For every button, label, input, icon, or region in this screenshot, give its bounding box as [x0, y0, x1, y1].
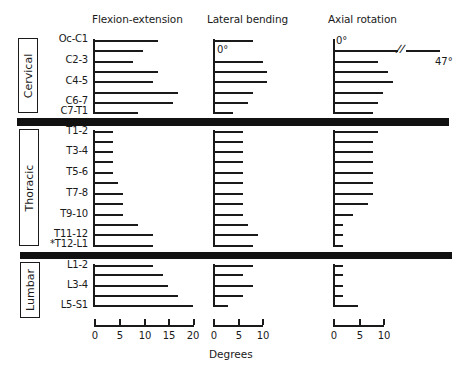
bar	[333, 71, 388, 73]
bar	[213, 92, 253, 94]
level-label: T5-6	[18, 166, 88, 177]
bar	[333, 182, 373, 184]
bar	[333, 81, 393, 83]
x-axis-label: Degrees	[209, 348, 253, 360]
bar	[93, 151, 113, 153]
bar	[333, 274, 343, 276]
axial-47-note: 47°	[435, 56, 453, 67]
bar	[93, 71, 158, 73]
bar	[213, 285, 253, 287]
bar	[93, 234, 153, 236]
bar	[93, 265, 153, 267]
bar	[213, 234, 258, 236]
bar	[333, 295, 343, 297]
bar	[333, 161, 373, 163]
category-axis-line	[213, 130, 215, 247]
category-axis-line	[333, 130, 335, 247]
bar	[93, 214, 123, 216]
level-label: C4-5	[18, 75, 88, 86]
bar	[333, 203, 368, 205]
tick-label: 10	[139, 330, 152, 341]
level-label: C2-3	[18, 54, 88, 65]
bar	[93, 50, 143, 52]
bar	[213, 214, 243, 216]
flexion-extension-title: Flexion-extension	[92, 13, 183, 25]
bar	[333, 61, 378, 63]
lateral-zero-note: 0°	[217, 44, 228, 55]
tick-label: 5	[357, 330, 363, 341]
bar	[213, 265, 253, 267]
axial-rotation-title: Axial rotation	[328, 13, 397, 25]
bar	[213, 102, 248, 104]
bar	[213, 182, 243, 184]
bar	[333, 141, 373, 143]
bar	[213, 193, 243, 195]
level-label: L3-4	[18, 279, 88, 290]
bar	[93, 102, 173, 104]
bar	[213, 305, 228, 307]
bar	[213, 112, 233, 114]
tick-label: 5	[117, 330, 123, 341]
category-axis-line	[93, 130, 95, 247]
bar	[213, 141, 243, 143]
lateral-bending-title: Lateral bending	[207, 13, 288, 25]
bar	[333, 305, 358, 307]
bar	[93, 161, 113, 163]
bar	[213, 203, 243, 205]
axial-zero-note: 0°	[336, 35, 347, 46]
bar	[93, 172, 113, 174]
tick-label: 10	[378, 330, 391, 341]
bar	[213, 71, 267, 73]
bar	[213, 40, 253, 42]
bar	[93, 193, 123, 195]
bar	[213, 161, 243, 163]
level-label: T9-10	[18, 208, 88, 219]
bar	[333, 92, 383, 94]
level-label: C7-T1	[18, 105, 88, 116]
bar	[213, 295, 243, 297]
level-label: T3-4	[18, 145, 88, 156]
bar	[333, 112, 373, 114]
bar	[93, 224, 138, 226]
bar	[213, 172, 243, 174]
tick-label: 0	[92, 330, 98, 341]
bar	[333, 285, 343, 287]
tick-label: 0	[331, 330, 337, 341]
bar	[333, 214, 353, 216]
bar	[93, 40, 158, 42]
bar	[93, 245, 153, 247]
bar	[213, 274, 243, 276]
bar	[93, 112, 138, 114]
bar	[333, 193, 373, 195]
level-label: T1-2	[18, 125, 88, 136]
level-label: L1-2	[18, 259, 88, 270]
thoracic-lumbar-divider	[20, 252, 452, 259]
bar	[333, 102, 378, 104]
bar	[333, 131, 378, 133]
bar	[93, 305, 193, 307]
tick-label: 20	[187, 330, 200, 341]
bar	[93, 81, 153, 83]
level-label: Oc-C1	[18, 33, 88, 44]
bar	[213, 81, 267, 83]
bar	[93, 203, 123, 205]
tick-label: 15	[163, 330, 176, 341]
bar	[93, 274, 163, 276]
level-label: L5-S1	[18, 299, 88, 310]
tick-label: 10	[257, 330, 270, 341]
bar	[213, 131, 243, 133]
bar	[93, 92, 178, 94]
bar	[93, 285, 168, 287]
bar	[213, 224, 248, 226]
bar	[333, 245, 343, 247]
bar	[93, 61, 133, 63]
bar	[333, 234, 343, 236]
tick-label: 5	[236, 330, 242, 341]
bar	[213, 61, 263, 63]
bar	[333, 151, 373, 153]
level-label: T7-8	[18, 187, 88, 198]
bar	[333, 50, 440, 52]
bar	[93, 131, 113, 133]
bar	[93, 182, 118, 184]
bar	[93, 141, 113, 143]
